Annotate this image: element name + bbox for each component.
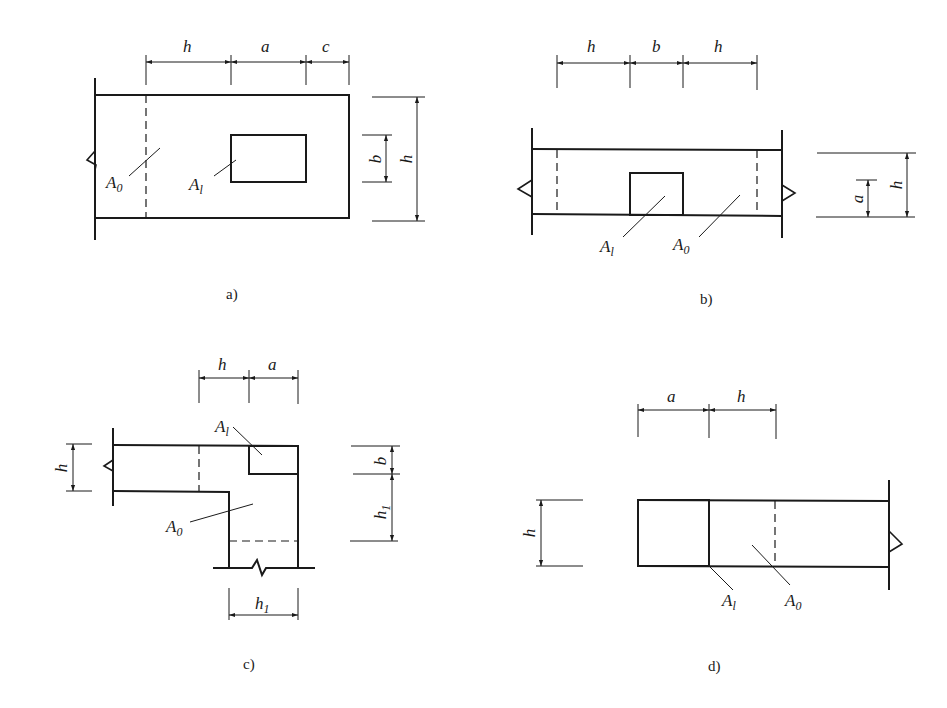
area-label-a0: A0: [165, 517, 182, 539]
local-compression-area-diagram: h a c A0 Al b h a): [0, 0, 947, 708]
dim-label: b: [366, 155, 385, 164]
panel-c-side-dimensions: b h1: [350, 446, 400, 541]
dim-label: h: [887, 181, 906, 190]
dim-label: a: [848, 195, 867, 204]
dim-label: a: [261, 37, 270, 56]
panel-a-top-dimensions: h a c: [146, 37, 349, 85]
panel-c: h a Al A0 h b h1: [52, 355, 400, 673]
dim-label: h: [714, 37, 723, 56]
area-label-a0: A0: [784, 591, 801, 613]
dim-label: h: [183, 37, 192, 56]
caption-b: b): [700, 291, 713, 308]
caption-d: d): [708, 658, 721, 675]
dim-label: h: [218, 355, 227, 374]
dim-label: a: [667, 387, 676, 406]
loaded-area-hatched: [630, 173, 683, 215]
dim-label: h: [52, 464, 71, 473]
dim-label: h: [737, 387, 746, 406]
panel-d: a h Al A0 h d): [520, 387, 902, 675]
area-label-al: Al: [214, 417, 229, 439]
dim-label: h: [587, 37, 596, 56]
dim-label: b: [371, 457, 390, 466]
dim-label: b: [652, 37, 661, 56]
panel-d-top-dimensions: a h: [638, 387, 776, 439]
loaded-area-hatched: [231, 135, 306, 182]
area-label-al: Al: [188, 175, 203, 197]
area-label-al: Al: [599, 237, 614, 259]
loaded-area-hatched: [638, 500, 709, 566]
caption-a: a): [226, 286, 238, 303]
dim-label-h1: h1: [255, 594, 270, 616]
dim-label-h1: h1: [371, 505, 393, 520]
area-label-al: Al: [721, 591, 736, 613]
panel-c-left-dimensions: h: [52, 444, 92, 491]
panel-b-top-dimensions: h b h: [557, 37, 757, 90]
panel-b: h b h Al A0 a h b): [518, 37, 916, 308]
dim-label: c: [322, 37, 330, 56]
dim-label: h: [520, 529, 539, 538]
dim-label: h: [397, 155, 416, 164]
panel-c-bottom-dimensions: h1: [229, 588, 298, 620]
panel-b-side-dimensions: a h: [816, 153, 916, 217]
panel-a: h a c A0 Al b h a): [87, 37, 425, 303]
panel-d-left-dimensions: h: [520, 500, 583, 566]
panel-a-side-dimensions: b h: [362, 97, 425, 221]
panel-c-top-dimensions: h a: [199, 355, 298, 404]
dim-label: a: [268, 355, 277, 374]
area-label-a0: A0: [672, 235, 689, 257]
caption-c: c): [243, 656, 255, 673]
area-label-a0: A0: [105, 173, 122, 195]
